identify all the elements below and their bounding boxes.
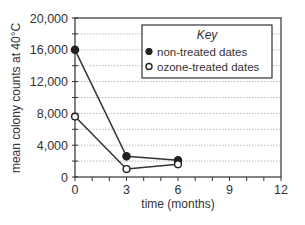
x-tick-label: 0: [72, 183, 79, 197]
x-axis-label: time (months): [141, 197, 214, 211]
x-tick-label: 6: [175, 183, 182, 197]
line-chart: 04,0008,00012,00016,00020,000 036912 mea…: [0, 0, 305, 225]
legend: Key non-treated dates ozone-treated date…: [142, 25, 272, 78]
open-circle-marker-icon: [123, 166, 130, 173]
y-axis-label: mean colony counts at 40°C: [9, 23, 23, 174]
open-circle-marker-icon: [146, 64, 152, 70]
y-tick-label: 12,000: [30, 75, 68, 89]
y-tick-label: 8,000: [37, 107, 68, 121]
legend-entry-non-treated: non-treated dates: [157, 46, 247, 58]
legend-entry-ozone-treated: ozone-treated dates: [157, 61, 260, 73]
open-circle-marker-icon: [72, 113, 79, 120]
y-tick-label: 4,000: [37, 139, 68, 153]
filled-circle-marker-icon: [146, 48, 152, 54]
y-tick-label: 20,000: [30, 12, 68, 26]
y-axis-ticks: 04,0008,00012,00016,00020,000: [30, 12, 78, 185]
x-tick-label: 3: [123, 183, 130, 197]
x-axis-ticks: 036912: [72, 177, 288, 197]
open-circle-marker-icon: [175, 161, 182, 168]
x-tick-label: 9: [226, 183, 233, 197]
filled-circle-marker-icon: [123, 153, 130, 160]
y-tick-label: 0: [61, 171, 68, 185]
legend-title: Key: [197, 28, 219, 42]
y-tick-label: 16,000: [30, 43, 68, 57]
filled-circle-marker-icon: [71, 46, 78, 53]
x-tick-label: 12: [274, 183, 288, 197]
